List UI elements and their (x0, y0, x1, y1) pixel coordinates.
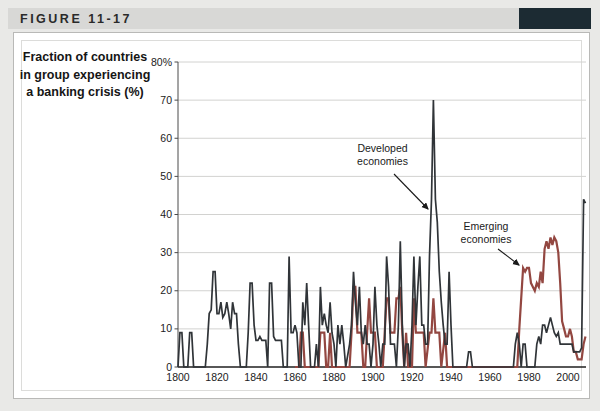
svg-text:1940: 1940 (439, 371, 463, 383)
annotation-emerging-economies: Emerging economies (448, 220, 524, 246)
gridlines (178, 62, 586, 329)
annotation-developed-economies: Developed economies (345, 142, 420, 168)
svg-text:2000: 2000 (556, 371, 580, 383)
svg-text:10: 10 (160, 322, 172, 334)
figure-page: FIGURE 11-17 01020304050607080%180018201… (0, 0, 600, 411)
svg-text:1880: 1880 (322, 371, 346, 383)
svg-text:1920: 1920 (400, 371, 424, 383)
svg-text:1860: 1860 (283, 371, 307, 383)
svg-text:40: 40 (160, 208, 172, 220)
svg-text:70: 70 (160, 94, 172, 106)
svg-text:1900: 1900 (361, 371, 385, 383)
svg-text:1840: 1840 (244, 371, 268, 383)
svg-text:1820: 1820 (205, 371, 229, 383)
data-series (178, 100, 586, 367)
chart-title: Fraction of countries in group experienc… (18, 49, 152, 102)
svg-text:60: 60 (160, 132, 172, 144)
svg-text:1800: 1800 (166, 371, 190, 383)
svg-text:20: 20 (160, 284, 172, 296)
svg-text:1980: 1980 (517, 371, 541, 383)
svg-text:50: 50 (160, 170, 172, 182)
svg-text:1960: 1960 (478, 371, 502, 383)
svg-text:80%: 80% (151, 56, 172, 68)
svg-text:30: 30 (160, 246, 172, 258)
